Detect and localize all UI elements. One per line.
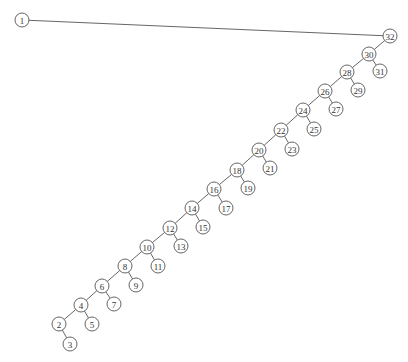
tree-node-4: 4: [74, 298, 88, 312]
tree-edges: [29, 20, 385, 338]
tree-node-15: 15: [196, 220, 210, 234]
edge-28-26: [330, 77, 341, 87]
node-label: 23: [288, 145, 298, 155]
tree-node-8: 8: [118, 259, 132, 273]
node-label: 30: [365, 50, 375, 60]
tree-node-6: 6: [95, 279, 109, 293]
edge-30-28: [352, 58, 363, 67]
edge-22-23: [285, 136, 289, 143]
tree-node-31: 31: [373, 64, 387, 78]
node-label: 19: [244, 184, 254, 194]
node-label: 18: [233, 166, 243, 176]
node-label: 21: [266, 164, 275, 174]
tree-node-27: 27: [329, 102, 343, 116]
node-label: 8: [123, 262, 128, 272]
node-label: 4: [79, 301, 84, 311]
node-label: 31: [376, 67, 385, 77]
tree-node-20: 20: [252, 143, 266, 157]
edge-6-4: [86, 291, 97, 301]
edge-26-27: [329, 97, 333, 103]
edge-12-13: [174, 234, 178, 240]
node-label: 14: [188, 204, 198, 214]
node-label: 15: [199, 223, 209, 233]
node-label: 9: [134, 281, 139, 291]
edge-12-10: [152, 232, 164, 242]
edge-10-11: [151, 253, 155, 260]
edge-20-21: [263, 156, 267, 162]
node-label: 3: [68, 340, 73, 350]
node-label: 28: [343, 68, 353, 78]
edge-28-29: [351, 78, 355, 84]
tree-node-12: 12: [163, 221, 177, 235]
node-label: 12: [166, 224, 175, 234]
edge-6-7: [106, 292, 110, 298]
tree-node-30: 30: [362, 47, 376, 61]
node-label: 16: [210, 185, 220, 195]
node-label: 25: [310, 125, 320, 135]
edge-4-5: [85, 311, 89, 318]
node-label: 13: [177, 242, 187, 252]
tree-node-25: 25: [307, 122, 321, 136]
tree-node-18: 18: [230, 163, 244, 177]
tree-node-11: 11: [151, 259, 165, 273]
edge-4-2: [64, 310, 75, 320]
tree-diagram: 1323031282926272425222320211819161714151…: [0, 0, 408, 362]
edge-8-9: [129, 272, 133, 279]
edge-16-17: [218, 195, 223, 202]
tree-node-28: 28: [340, 65, 354, 79]
edge-24-25: [307, 116, 311, 123]
node-label: 32: [386, 32, 395, 42]
node-label: 1: [20, 16, 25, 26]
node-label: 22: [277, 126, 286, 136]
edge-18-16: [219, 174, 231, 184]
edge-8-6: [107, 271, 119, 282]
tree-node-17: 17: [219, 201, 233, 215]
node-label: 17: [222, 204, 232, 214]
tree-node-5: 5: [85, 317, 99, 331]
node-label: 10: [143, 243, 153, 253]
node-label: 6: [100, 282, 105, 292]
tree-node-26: 26: [318, 84, 332, 98]
tree-node-32: 32: [383, 29, 397, 43]
tree-node-14: 14: [185, 201, 199, 215]
edge-14-15: [196, 214, 200, 221]
tree-node-24: 24: [296, 103, 310, 117]
edge-16-14: [197, 194, 208, 204]
edge-10-8: [130, 252, 141, 262]
node-label: 20: [255, 146, 265, 156]
tree-nodes: 1323031282926272425222320211819161714151…: [15, 13, 397, 351]
node-label: 5: [90, 320, 95, 330]
edge-32-30: [374, 41, 384, 50]
node-label: 11: [154, 262, 163, 272]
tree-node-9: 9: [129, 278, 143, 292]
tree-node-29: 29: [351, 83, 365, 97]
edge-14-12: [175, 213, 187, 224]
node-label: 26: [321, 87, 331, 97]
node-label: 27: [332, 105, 342, 115]
tree-node-23: 23: [285, 142, 299, 156]
tree-node-21: 21: [263, 161, 277, 175]
tree-node-10: 10: [140, 240, 154, 254]
tree-node-16: 16: [207, 182, 221, 196]
tree-node-2: 2: [52, 317, 66, 331]
edge-2-3: [62, 330, 66, 338]
node-label: 2: [57, 320, 62, 330]
node-label: 24: [299, 106, 309, 116]
node-label: 29: [354, 86, 364, 96]
edge-30-31: [373, 60, 376, 65]
tree-node-13: 13: [174, 239, 188, 253]
edge-22-20: [264, 135, 276, 146]
edge-20-18: [242, 155, 254, 166]
tree-node-7: 7: [107, 297, 121, 311]
edge-26-24: [308, 96, 319, 106]
edge-18-19: [241, 176, 245, 182]
tree-node-3: 3: [63, 337, 77, 351]
node-label: 7: [112, 300, 117, 310]
tree-node-22: 22: [274, 123, 288, 137]
tree-node-1: 1: [15, 13, 29, 27]
edge-24-22: [286, 115, 298, 126]
tree-node-19: 19: [241, 181, 255, 195]
edge-1-32: [29, 20, 383, 35]
